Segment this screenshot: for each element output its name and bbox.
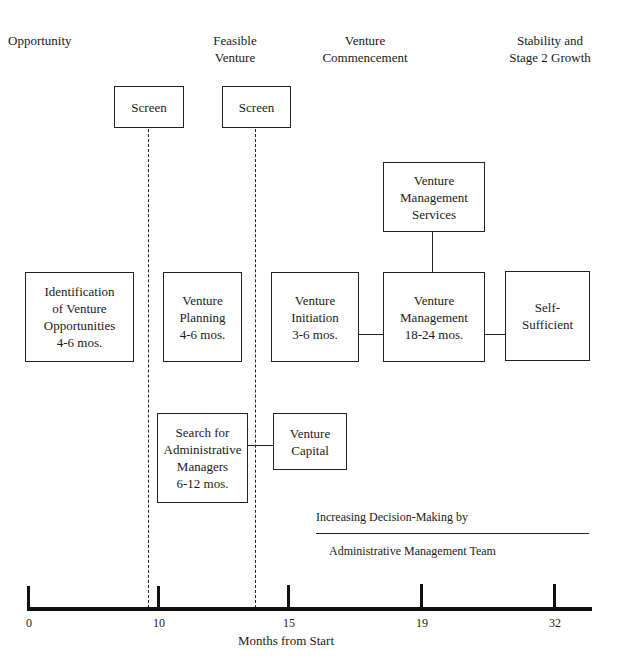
tick-32 xyxy=(553,584,556,609)
tick-10 xyxy=(157,586,160,609)
tick-label-10: 10 xyxy=(144,616,174,631)
tick-label-15: 15 xyxy=(274,616,304,631)
venture-capital-box: Venture Capital xyxy=(273,413,347,470)
tick-15 xyxy=(287,585,290,609)
self-sufficient-box: Self- Sufficient xyxy=(505,271,590,361)
venture-initiation-box: Venture Initiation 3-6 mos. xyxy=(271,272,359,362)
venture-planning-box: Venture Planning 4-6 mos. xyxy=(163,272,242,362)
phase-stability-growth: Stability and Stage 2 Growth xyxy=(495,32,605,66)
venture-management-box: Venture Management 18-24 mos. xyxy=(383,272,485,362)
initiation-management-connector xyxy=(359,334,383,335)
tick-0 xyxy=(27,586,30,609)
screen-box-1: Screen xyxy=(114,86,184,128)
phase-feasible-venture: Feasible Venture xyxy=(200,32,270,66)
tick-label-0: 0 xyxy=(14,616,44,631)
services-connector xyxy=(432,232,433,272)
identification-box: Identification of Venture Opportunities … xyxy=(25,272,134,362)
tick-19 xyxy=(420,584,423,609)
screen-2-dashed-line xyxy=(255,129,256,608)
tick-label-32: 32 xyxy=(540,616,570,631)
administrative-team-label: Administrative Management Team xyxy=(329,544,496,559)
venture-management-services-box: Venture Management Services xyxy=(383,162,485,232)
increasing-decision-making-label: Increasing Decision-Making by xyxy=(316,510,468,525)
search-managers-box: Search for Administrative Managers 6-12 … xyxy=(157,413,248,503)
screen-box-2: Screen xyxy=(222,86,291,128)
phase-opportunity: Opportunity xyxy=(8,32,98,49)
phase-venture-commencement: Venture Commencement xyxy=(310,32,420,66)
screen-1-dashed-line xyxy=(148,129,149,608)
tick-label-19: 19 xyxy=(407,616,437,631)
timeline-axis xyxy=(27,607,592,611)
search-capital-connector xyxy=(248,445,273,446)
axis-label: Months from Start xyxy=(238,633,334,649)
management-selfsufficient-connector xyxy=(485,334,505,335)
decision-making-divider xyxy=(316,533,589,534)
